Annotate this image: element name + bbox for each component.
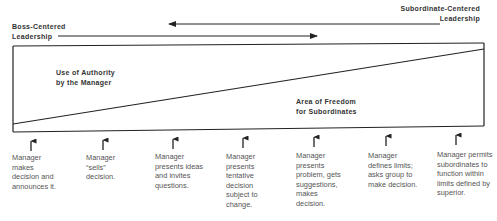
subordinate-centered-label-line1: Subordinate-Centered <box>400 4 480 14</box>
behavior-3: Manager presents ideas and invites quest… <box>155 152 207 190</box>
boss-centered-label-line2: Leadership <box>12 32 66 42</box>
authority-area-label-line1: Use of Authority <box>56 68 115 78</box>
boss-centered-label: Boss-Centered Leadership <box>12 22 66 42</box>
behavior-5: Manager presents problem, gets suggestio… <box>296 151 346 209</box>
freedom-area-label-line2: for Subordinates <box>296 107 357 117</box>
freedom-area-label-line1: Area of Freedom <box>296 97 357 107</box>
subordinate-centered-label: Subordinate-Centered Leadership <box>400 4 480 24</box>
subordinate-centered-label-line2: Leadership <box>400 14 480 24</box>
box-bottom-edge <box>13 126 484 132</box>
freedom-area-label: Area of Freedom for Subordinates <box>296 97 357 116</box>
behavior-arrows <box>31 135 456 151</box>
behavior-7: Manager permits subordinates to function… <box>437 150 493 198</box>
boss-centered-label-line1: Boss-Centered <box>12 22 66 32</box>
behavior-1: Manager makes decision and announces it. <box>12 153 57 191</box>
behavior-2: Manager “sells” decision. <box>86 153 126 182</box>
authority-area-label: Use of Authority by the Manager <box>56 68 115 87</box>
box-top-edge <box>13 43 484 46</box>
behavior-4: Manager presents tentative decision subj… <box>226 152 278 210</box>
behavior-6: Manager defines limits; asks group to ma… <box>368 151 418 189</box>
authority-area-label-line2: by the Manager <box>56 78 115 88</box>
